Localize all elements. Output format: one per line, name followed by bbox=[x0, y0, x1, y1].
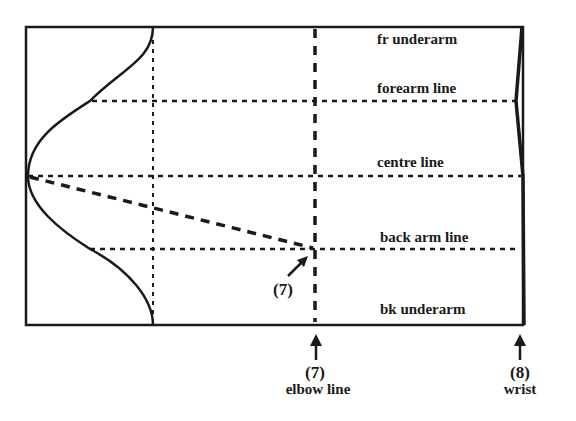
centre-line-label: centre line bbox=[377, 155, 444, 170]
bk-underarm-label: bk underarm bbox=[380, 302, 465, 317]
wrist-number: (8) bbox=[505, 364, 535, 381]
elbow-number: (7) bbox=[300, 364, 330, 381]
forearm-line-label: forearm line bbox=[377, 81, 456, 96]
wrist-arrowhead bbox=[514, 334, 526, 346]
elbow-arrowhead bbox=[310, 334, 322, 346]
wrist-label: wrist bbox=[495, 382, 545, 397]
elbow-point-number: (7) bbox=[268, 281, 298, 298]
back-arm-line-label: back arm line bbox=[380, 230, 468, 245]
sleeve-diagram bbox=[0, 0, 576, 421]
elbow-point-arrow bbox=[288, 262, 302, 276]
fr-underarm-label: fr underarm bbox=[377, 32, 457, 47]
elbow-line-label: elbow line bbox=[278, 382, 358, 397]
